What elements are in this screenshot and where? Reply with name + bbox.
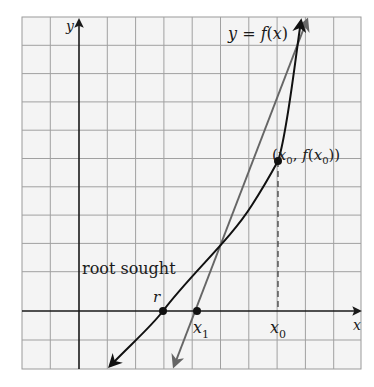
root-label: r [153, 288, 161, 306]
x1-point [193, 307, 201, 315]
x-axis-label: x [353, 317, 361, 333]
root-sought-label: root sought [82, 259, 176, 278]
root-point [159, 307, 167, 315]
grid-background [22, 17, 361, 369]
curve-label: y = f(x) [227, 24, 288, 43]
tangent-point-label: (x0, f(x0)) [272, 146, 340, 166]
y-axis-label: y [65, 18, 75, 34]
newtons-method-diagram: y x y = f(x) (x0, f(x0)) root sought r x… [0, 0, 374, 387]
